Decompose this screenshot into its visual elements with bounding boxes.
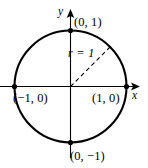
point-marker-top: [68, 28, 73, 33]
point-label-left: (−1, 0): [13, 92, 48, 105]
point-label-bottom: (0, −1): [70, 150, 105, 163]
point-label-right: (1, 0): [92, 92, 120, 105]
point-label-top: (0, 1): [74, 16, 102, 29]
point-marker-right: [124, 84, 129, 89]
point-marker-left: [12, 84, 17, 89]
y-axis-label: y: [58, 6, 63, 18]
radius-label: r = 1: [68, 47, 95, 59]
x-axis-label: x: [132, 90, 137, 102]
point-marker-bottom: [68, 140, 73, 145]
unit-circle-figure: y x (0, 1) (−1, 0) (1, 0) (0, −1) r = 1: [0, 0, 148, 168]
